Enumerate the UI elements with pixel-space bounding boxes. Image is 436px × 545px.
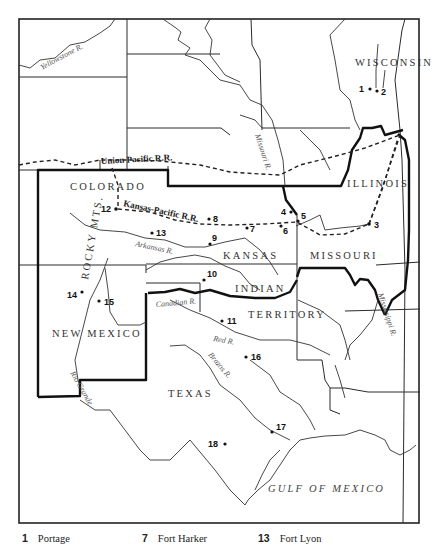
point-1-label: 1	[359, 84, 364, 94]
label-texas: TEXAS	[168, 388, 213, 399]
label-canadian-river: Canadian R.	[155, 297, 196, 309]
legend-number: 1	[22, 532, 28, 544]
point-8-dot	[207, 217, 210, 220]
point-16-dot	[244, 355, 247, 358]
label-gulf-of-mexico: GULF OF MEXICO	[268, 483, 385, 494]
label-illinois: ILLINOIS	[347, 178, 409, 189]
legend-place: Portage	[38, 533, 70, 544]
label-red-river: Red R.	[212, 334, 236, 347]
label-brazos-river: Brazos R.	[206, 351, 233, 381]
point-12-label: 12	[101, 204, 111, 214]
point-18-label: 18	[208, 439, 218, 449]
point-11-label: 11	[227, 316, 237, 326]
historical-map: WISCONSIN ILLINOIS COLORADO KANSAS MISSO…	[0, 0, 436, 530]
point-18-dot	[223, 442, 226, 445]
legend-entry: 7Fort Harker	[142, 532, 207, 544]
label-indian: INDIAN	[235, 283, 286, 294]
point-13-label: 13	[156, 228, 166, 238]
point-15-dot	[97, 299, 100, 302]
point-7-label: 7	[250, 224, 255, 234]
point-6-label: 6	[283, 226, 288, 236]
label-yellowstone-river: Yellowstone R.	[39, 42, 85, 72]
label-territory: TERRITORY	[248, 309, 326, 320]
legend-place: Fort Lyon	[280, 533, 322, 544]
label-missouri-river: Missouri R.	[253, 132, 273, 171]
legend-number: 13	[258, 532, 270, 544]
point-14-dot	[80, 290, 83, 293]
point-1-dot	[368, 87, 371, 90]
label-new-mexico: NEW MEXICO	[52, 328, 142, 339]
point-3-label: 3	[374, 220, 379, 230]
legend-entry: 13Fort Lyon	[258, 532, 321, 544]
map-frame	[19, 19, 419, 523]
legend-number: 7	[142, 532, 148, 544]
point-4-label: 4	[281, 207, 286, 217]
point-8-label: 8	[213, 214, 218, 224]
point-16-label: 16	[251, 352, 261, 362]
label-kansas: KANSAS	[223, 250, 278, 261]
legend-entry: 1Portage	[22, 532, 70, 544]
point-4-dot	[289, 210, 292, 213]
point-2-dot	[375, 89, 378, 92]
point-3-dot	[367, 222, 371, 226]
rivers	[19, 19, 385, 505]
point-9-label: 9	[212, 233, 217, 243]
point-14-label: 14	[67, 290, 77, 300]
legend-place: Fort Harker	[158, 533, 207, 544]
label-colorado: COLORADO	[70, 181, 146, 192]
map-legend: 1Portage 7Fort Harker 13Fort Lyon	[0, 532, 436, 545]
point-2-label: 2	[381, 87, 386, 97]
heavy-borders	[38, 126, 409, 397]
label-missouri: MISSOURI	[310, 250, 378, 261]
point-11-dot	[220, 319, 223, 322]
point-7-dot	[245, 226, 248, 229]
point-5-dot	[296, 219, 299, 222]
point-12-dot	[114, 207, 118, 211]
point-15-label: 15	[104, 297, 114, 307]
label-wisconsin: WISCONSIN	[355, 57, 433, 68]
point-13-dot	[150, 231, 153, 234]
label-union-pacific: Union Pacific R.R.	[101, 152, 173, 166]
point-10-label: 10	[207, 269, 217, 279]
point-10-dot	[202, 278, 205, 281]
point-5-label: 5	[301, 211, 306, 221]
state-borders	[19, 19, 420, 523]
point-17-label: 17	[276, 422, 286, 432]
point-17-dot	[270, 430, 273, 433]
